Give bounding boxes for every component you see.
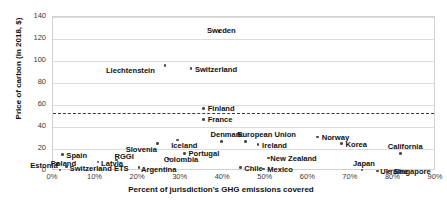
plot-area: SwedenLiechtensteinSwitzerlandFinlandFra… (52, 16, 435, 170)
data-point[interactable] (399, 152, 402, 155)
x-tick-label: 70% (335, 173, 365, 181)
x-tick-label: 40% (207, 173, 237, 181)
data-point-label: Switzerland (195, 66, 237, 74)
data-point-label: France (208, 116, 233, 124)
y-tick-label: 120 (0, 34, 46, 42)
data-point[interactable] (65, 165, 68, 168)
data-point[interactable] (244, 140, 247, 143)
gridline (53, 149, 434, 150)
data-point[interactable] (220, 140, 223, 143)
y-tick-label: 140 (0, 12, 46, 20)
data-point[interactable] (61, 153, 64, 156)
data-point-label: Finland (208, 105, 235, 113)
x-tick-label: 30% (165, 173, 195, 181)
data-point-label: European Union (237, 131, 296, 139)
gridline (53, 127, 434, 128)
x-tick-label: 20% (122, 173, 152, 181)
x-tick-label: 80% (377, 173, 407, 181)
data-point-label: RGGI (114, 153, 133, 161)
data-point[interactable] (340, 142, 343, 145)
data-point-label: Spain (66, 152, 87, 160)
x-tick-label: 50% (250, 173, 280, 181)
y-tick-label: 60 (0, 100, 46, 108)
data-point-label: Colombia (164, 156, 199, 164)
data-point[interactable] (361, 169, 364, 172)
data-point[interactable] (59, 169, 62, 172)
data-point[interactable] (267, 157, 270, 160)
gridline (53, 61, 434, 62)
data-point[interactable] (202, 107, 205, 110)
data-point-label: Korea (346, 141, 368, 149)
gridline (53, 105, 434, 106)
x-tick-label: 0% (37, 173, 67, 181)
y-tick-label: 40 (0, 122, 46, 130)
data-point-label: Japan (353, 160, 375, 168)
data-point-label: California (388, 143, 423, 151)
gridline (53, 83, 434, 84)
threshold-line (53, 113, 434, 114)
x-tick-label: 60% (292, 173, 322, 181)
data-point[interactable] (376, 170, 379, 173)
data-point[interactable] (239, 166, 242, 169)
data-point[interactable] (164, 64, 167, 67)
data-point-label: Liechtenstein (106, 67, 155, 75)
data-point[interactable] (262, 168, 265, 171)
data-point-label: Ireland (262, 142, 287, 150)
x-axis-title: Percent of jurisdiction's GHG emissions … (0, 185, 442, 194)
data-point[interactable] (190, 67, 193, 70)
x-tick-label: 10% (80, 173, 110, 181)
x-tick-label: 90% (420, 173, 447, 181)
gridline (53, 17, 434, 18)
y-axis-title: Price of carbon (in 2018, $) (14, 0, 23, 139)
data-point[interactable] (138, 166, 141, 169)
data-point[interactable] (257, 143, 260, 146)
data-point[interactable] (202, 118, 205, 121)
gridline (53, 39, 434, 40)
data-point-label: New Zealand (270, 155, 316, 163)
y-tick-label: 80 (0, 78, 46, 86)
y-tick-label: 20 (0, 144, 46, 152)
data-point[interactable] (316, 136, 319, 139)
data-point-label: Sweden (207, 27, 236, 35)
y-tick-label: 100 (0, 56, 46, 64)
